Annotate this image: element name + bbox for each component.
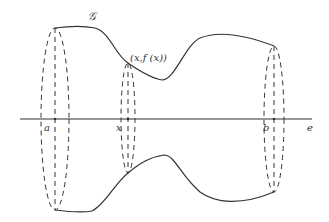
e-label: e [307, 122, 313, 133]
a-label: a [44, 122, 50, 133]
curve-label: 𝒢 [88, 10, 98, 23]
cross-section-x [121, 63, 135, 173]
b-label: b [263, 122, 269, 133]
x-label: x [116, 122, 122, 133]
lower-curve [55, 155, 274, 212]
solid-of-revolution-diagram: 𝒢 (x,f (x)) a x b e [0, 0, 329, 222]
point-label: (x,f (x)) [130, 52, 167, 63]
